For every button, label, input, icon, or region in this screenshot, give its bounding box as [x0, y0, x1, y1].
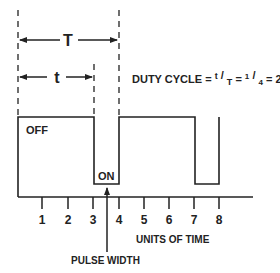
tick-label: 1	[39, 213, 46, 227]
tick-label: 6	[166, 213, 173, 227]
off-label: OFF	[26, 124, 48, 136]
time-ticks	[42, 197, 219, 209]
period-arrow: T	[20, 32, 117, 49]
duty-cycle-diagram: T t DUTY CYCLE = t / T = 1 / 4 = 25% OFF…	[0, 0, 280, 273]
tick-labels: 1 2 3 4 5 6 7 8	[39, 213, 223, 227]
pulse-width-label: PULSE WIDTH	[71, 255, 140, 266]
duty-cycle-formula: DUTY CYCLE = t / T = 1 / 4 = 25%	[132, 69, 280, 87]
pulse-label: t	[54, 69, 60, 86]
period-label: T	[63, 32, 73, 49]
tick-label: 7	[191, 213, 198, 227]
tick-label: 4	[116, 213, 123, 227]
pulse-waveform	[18, 117, 219, 197]
tick-label: 3	[90, 213, 97, 227]
tick-label: 8	[216, 213, 223, 227]
tick-label: 5	[141, 213, 148, 227]
x-axis-label: UNITS OF TIME	[136, 234, 210, 245]
on-label: ON	[98, 170, 115, 182]
pulse-arrow: t	[20, 69, 92, 86]
tick-label: 2	[65, 213, 72, 227]
